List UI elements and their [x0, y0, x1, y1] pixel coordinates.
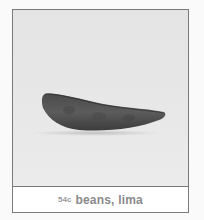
- product-photo: [13, 10, 188, 187]
- lima-bean-image: [39, 90, 169, 140]
- product-card[interactable]: 54c beans, lima: [12, 9, 189, 213]
- product-caption: 54c beans, lima: [13, 187, 188, 212]
- product-price: 54c: [58, 195, 71, 204]
- product-name: beans, lima: [75, 193, 143, 207]
